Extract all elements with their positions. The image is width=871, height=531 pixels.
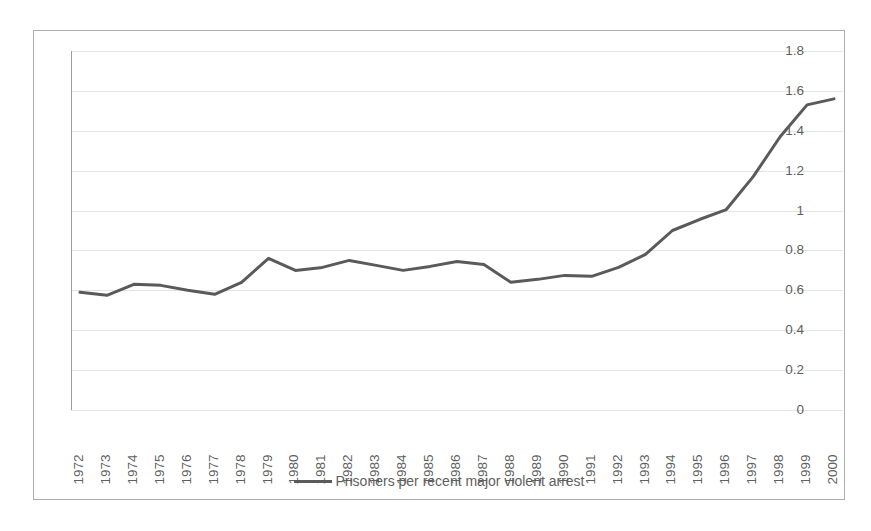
- plot-area: [71, 51, 843, 410]
- gridline: [71, 410, 843, 411]
- chart-legend: Prisoners per recent major violent arres…: [34, 473, 844, 489]
- chart-frame: 00.20.40.60.811.21.41.61.8 1972197319741…: [33, 30, 845, 500]
- series-line-chart: [71, 51, 843, 410]
- series-line: [80, 99, 834, 295]
- legend-color-swatch: [294, 480, 332, 483]
- legend-label: Prisoners per recent major violent arres…: [336, 473, 585, 489]
